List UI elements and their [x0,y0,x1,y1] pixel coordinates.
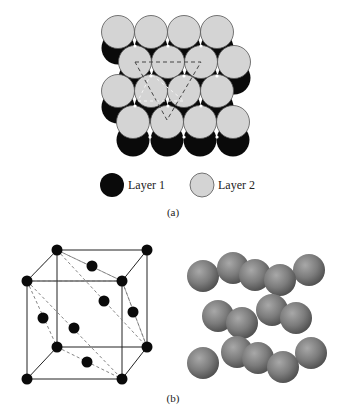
sphere-stacking-model [187,252,327,383]
legend-label-layer-2: Layer 2 [218,178,255,192]
layer-2-swatch-icon [190,173,214,197]
legend-item-layer-1: Layer 1 [100,173,165,197]
panel-a-layer-stack [102,16,251,157]
legend: Layer 1 Layer 2 [100,173,255,197]
layer-2-atoms [102,16,251,139]
fcc-unit-cell [22,245,153,385]
caption-b: (b) [167,392,180,405]
legend-label-layer-1: Layer 1 [128,178,165,192]
legend-item-layer-2: Layer 2 [190,173,255,197]
caption-a: (a) [167,206,180,219]
crystal-structure-figure: Layer 1 Layer 2 (a) [0,0,345,420]
layer-1-swatch-icon [100,173,124,197]
